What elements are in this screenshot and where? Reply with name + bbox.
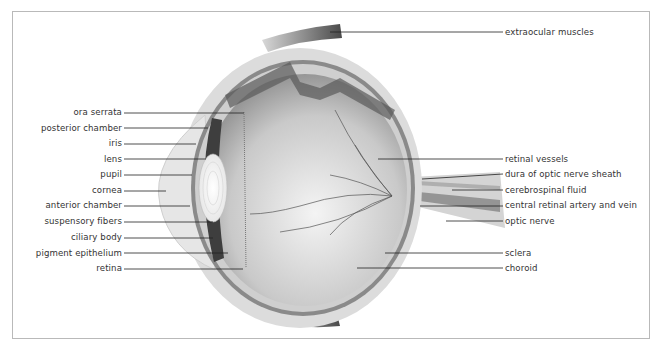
- label-sclera: sclera: [505, 248, 531, 258]
- label-pigment-epithelium: pigment epithelium: [12, 248, 122, 258]
- label-dura-optic-nerve-sheath: dura of optic nerve sheath: [505, 169, 622, 179]
- label-retinal-vessels: retinal vessels: [505, 154, 568, 164]
- label-choroid: choroid: [505, 263, 538, 273]
- label-iris: iris: [12, 138, 122, 148]
- label-cornea: cornea: [12, 185, 122, 195]
- label-optic-nerve: optic nerve: [505, 216, 555, 226]
- label-cerebrospinal-fluid: cerebrospinal fluid: [505, 185, 586, 195]
- label-ciliary-body: ciliary body: [12, 232, 122, 242]
- label-retina: retina: [12, 263, 122, 273]
- label-posterior-chamber: posterior chamber: [12, 123, 122, 133]
- label-ora-serrata: ora serrata: [12, 107, 122, 117]
- label-lens: lens: [12, 154, 122, 164]
- label-central-retinal-artery-vein: central retinal artery and vein: [505, 200, 637, 210]
- label-extraocular-muscles: extraocular muscles: [505, 27, 594, 37]
- extraocular-muscle-top: [262, 24, 342, 52]
- label-anterior-chamber: anterior chamber: [12, 200, 122, 210]
- label-suspensory-fibers: suspensory fibers: [12, 216, 122, 226]
- label-pupil: pupil: [12, 169, 122, 179]
